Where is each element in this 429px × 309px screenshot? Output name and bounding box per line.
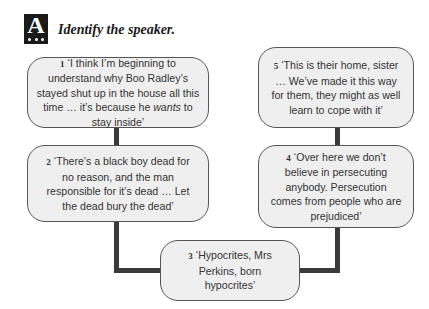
quote-box-1: 1‘I think I’m beginning to understand wh… <box>27 57 209 128</box>
quote-number: 2 <box>46 157 51 167</box>
quote-box-4: 4‘Over here we don’t believe in persecut… <box>258 145 414 228</box>
quote-text-2: 2‘There’s a black boy dead for no reason… <box>42 154 194 213</box>
instruction-heading: Identify the speaker. <box>58 22 175 38</box>
connector-2-3-horizontal <box>114 268 162 273</box>
badge-letter: A <box>24 11 48 39</box>
quote-number: 4 <box>286 153 291 163</box>
quote-text-3: 3‘Hypocrites, Mrs Perkins, born hypocrit… <box>181 248 279 293</box>
quote-text-5: 5‘This is their home, sister … We’ve mad… <box>271 58 401 117</box>
quote-text-4: 4‘Over here we don’t believe in persecut… <box>269 150 403 224</box>
quote-number: 3 <box>188 251 193 261</box>
quote-number: 5 <box>274 61 279 71</box>
quote-text-1: 1‘I think I’m beginning to understand wh… <box>36 56 200 130</box>
activity-badge: A <box>24 14 48 44</box>
quote-number: 1 <box>60 59 65 69</box>
quote-box-3: 3‘Hypocrites, Mrs Perkins, born hypocrit… <box>160 240 300 301</box>
connector-4-3-horizontal <box>298 268 340 273</box>
connector-1-2 <box>114 127 119 146</box>
connector-4-3-vertical <box>335 227 340 273</box>
quote-box-5: 5‘This is their home, sister … We’ve mad… <box>258 47 414 128</box>
badge-dots-icon <box>28 38 44 41</box>
connector-2-3-vertical <box>114 221 119 273</box>
quote-box-2: 2‘There’s a black boy dead for no reason… <box>27 145 209 222</box>
connector-5-4 <box>335 127 340 146</box>
